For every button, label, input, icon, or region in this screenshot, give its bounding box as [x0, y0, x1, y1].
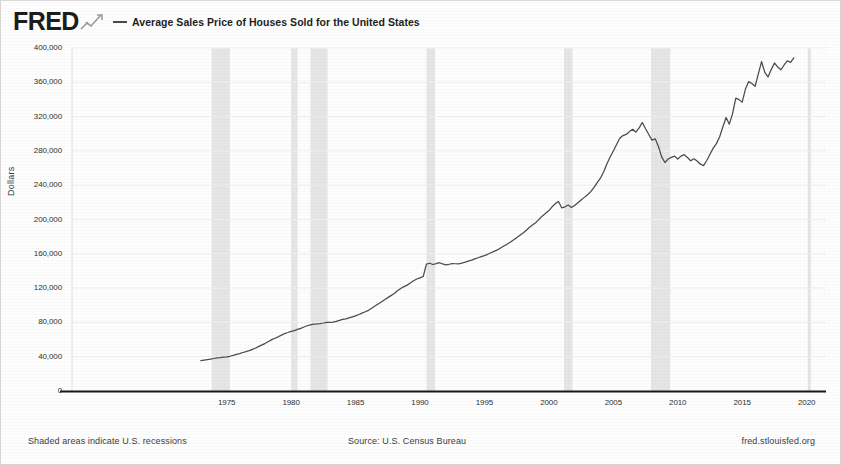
fred-url-link[interactable]: fred.stlouisfed.org [742, 436, 815, 446]
x-tick-label: 2020 [798, 398, 815, 407]
x-axis-tick-labels: 1975198019851990199520002005201020152020 [0, 0, 841, 465]
x-tick-label: 1975 [218, 398, 235, 407]
chart-footer: Shaded areas indicate U.S. recessions So… [0, 432, 841, 454]
plot-area: Dollars 040,00080,000120,000160,000200,0… [0, 0, 841, 465]
x-tick-label: 2005 [605, 398, 622, 407]
x-tick-label: 2000 [540, 398, 557, 407]
source-note: Source: U.S. Census Bureau [348, 436, 466, 446]
fred-chart-screenshot: FRED Average Sales Price of Houses Sold … [0, 0, 841, 465]
x-tick-label: 1980 [282, 398, 299, 407]
x-tick-label: 1990 [411, 398, 428, 407]
x-tick-label: 1995 [476, 398, 493, 407]
x-tick-label: 1985 [347, 398, 364, 407]
x-tick-label: 2015 [734, 398, 751, 407]
recession-note: Shaded areas indicate U.S. recessions [28, 436, 187, 446]
x-tick-label: 2010 [669, 398, 686, 407]
